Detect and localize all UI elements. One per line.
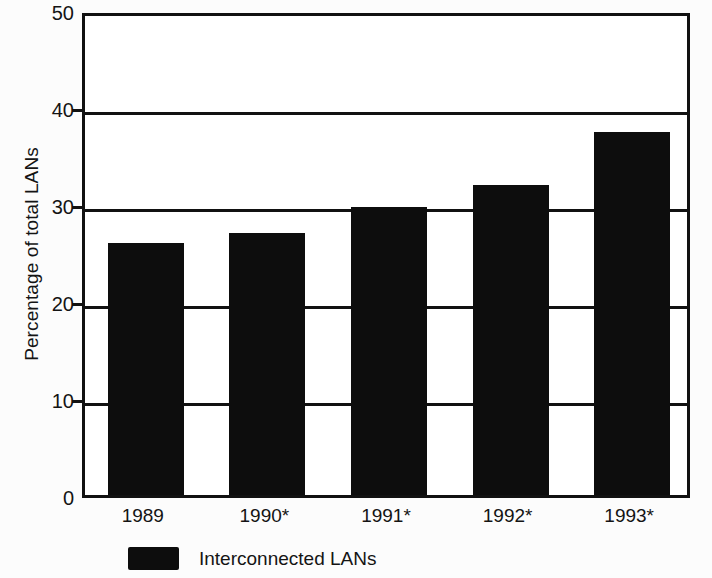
y-tick-mark-30 — [72, 206, 82, 209]
legend-label-interconnected-lans: Interconnected LANs — [199, 548, 376, 570]
bar-1989 — [108, 243, 184, 495]
y-tick-label-40: 40 — [18, 100, 74, 120]
bar-1991 — [351, 207, 427, 495]
legend: Interconnected LANs — [128, 547, 376, 570]
y-tick-label-10: 10 — [18, 391, 74, 411]
x-tick-label-1993: 1993* — [569, 505, 689, 527]
y-tick-mark-20 — [72, 303, 82, 306]
legend-swatch-interconnected-lans — [128, 547, 179, 570]
y-tick-label-20: 20 — [18, 294, 74, 314]
plot-area — [82, 13, 690, 498]
gridline-40 — [85, 112, 687, 115]
x-tick-label-1989: 1989 — [83, 505, 203, 527]
bar-1990 — [229, 233, 305, 495]
y-tick-mark-10 — [72, 400, 82, 403]
bar-1993 — [594, 132, 670, 495]
y-tick-label-0: 0 — [18, 488, 74, 508]
bar-chart: Percentage of total LANs 01020304050 198… — [0, 0, 712, 578]
y-axis-tick-labels: 01020304050 — [14, 0, 74, 578]
x-tick-label-1992: 1992* — [448, 505, 568, 527]
y-tick-label-30: 30 — [18, 197, 74, 217]
y-tick-mark-40 — [72, 109, 82, 112]
x-tick-label-1990: 1990* — [204, 505, 324, 527]
x-tick-label-1991: 1991* — [326, 505, 446, 527]
bar-1992 — [473, 185, 549, 495]
y-tick-label-50: 50 — [18, 3, 74, 23]
